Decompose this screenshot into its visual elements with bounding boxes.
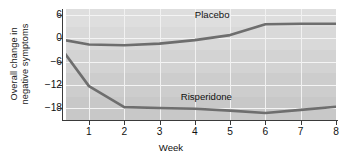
x-tick-mark bbox=[336, 120, 337, 125]
chart-figure: Overall change in negative symptoms 60−6… bbox=[0, 0, 342, 161]
y-tick-mark bbox=[58, 108, 63, 109]
x-tick-label: 8 bbox=[326, 127, 342, 137]
x-tick-label: 5 bbox=[220, 127, 240, 137]
x-tick-mark bbox=[230, 120, 231, 125]
x-tick-mark bbox=[160, 120, 161, 125]
x-tick-mark bbox=[195, 120, 196, 125]
series-label-risperidone: Risperidone bbox=[181, 91, 232, 102]
x-tick-mark bbox=[124, 120, 125, 125]
x-tick-label: 4 bbox=[185, 127, 205, 137]
x-tick-label: 6 bbox=[255, 127, 275, 137]
y-tick-mark bbox=[58, 62, 63, 63]
x-tick-label: 1 bbox=[79, 127, 99, 137]
series-lines bbox=[66, 9, 336, 120]
plot-area: PlaceboRisperidone bbox=[66, 9, 336, 120]
x-tick-mark bbox=[265, 120, 266, 125]
x-tick-mark bbox=[301, 120, 302, 125]
x-axis-title: Week bbox=[0, 142, 342, 153]
x-axis-spine bbox=[62, 120, 338, 121]
series-line-placebo bbox=[66, 24, 336, 45]
x-tick-label: 2 bbox=[114, 127, 134, 137]
y-tick-mark bbox=[58, 85, 63, 86]
series-label-placebo: Placebo bbox=[195, 9, 230, 20]
y-tick-mark bbox=[58, 15, 63, 16]
x-tick-label: 7 bbox=[291, 127, 311, 137]
y-axis-title: Overall change in negative symptoms bbox=[3, 0, 37, 131]
x-tick-mark bbox=[89, 120, 90, 125]
y-tick-mark bbox=[58, 38, 63, 39]
y-axis-spine bbox=[62, 9, 63, 121]
y-axis-tick-labels: 60−6−12−18 bbox=[36, 0, 62, 161]
x-tick-label: 3 bbox=[150, 127, 170, 137]
y-axis-title-line-2: negative symptoms bbox=[20, 24, 32, 105]
y-axis-title-line-1: Overall change in bbox=[9, 27, 21, 100]
